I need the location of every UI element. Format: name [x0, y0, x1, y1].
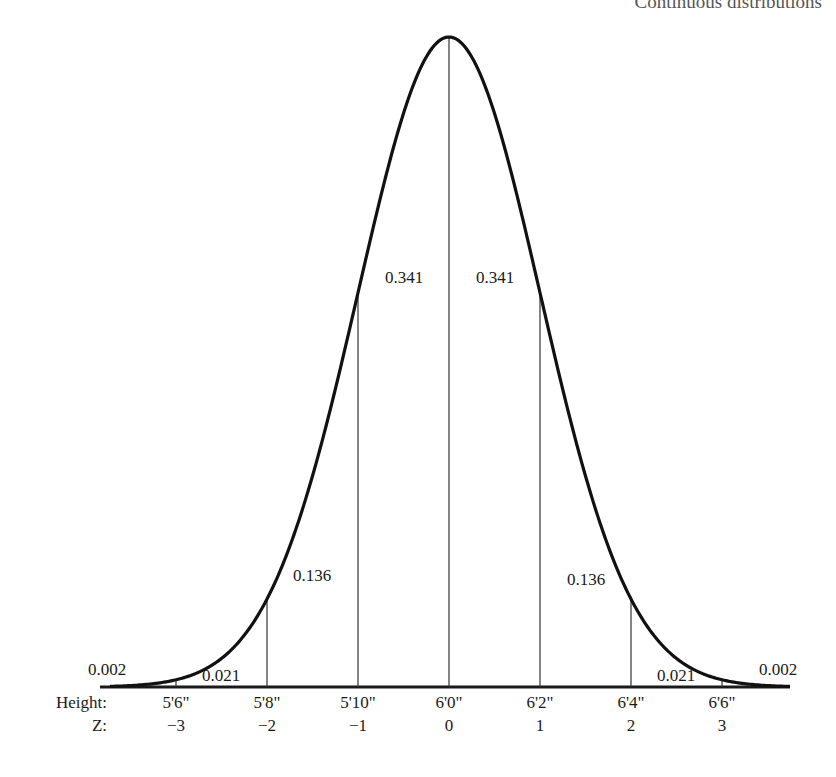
height-tick-label: 6'0" — [435, 693, 462, 713]
region-probability-label: 0.002 — [759, 660, 797, 680]
z-tick-label: −1 — [349, 716, 367, 736]
z-tick-label: 0 — [445, 716, 454, 736]
height-tick-label: 5'6" — [162, 693, 189, 713]
region-probability-label: 0.136 — [293, 566, 331, 586]
z-tick-label: 2 — [627, 716, 636, 736]
region-probability-label: 0.021 — [202, 666, 240, 686]
region-probability-label: 0.341 — [385, 268, 423, 288]
z-tick-label: −2 — [258, 716, 276, 736]
region-probability-label: 0.136 — [567, 570, 605, 590]
height-tick-label: 6'6" — [708, 693, 735, 713]
region-probability-label: 0.341 — [476, 268, 514, 288]
normal-curve — [110, 37, 790, 686]
height-tick-label: 5'10" — [340, 693, 376, 713]
z-tick-label: 3 — [718, 716, 727, 736]
height-row-label: Height: — [0, 693, 107, 713]
z-tick-label: −3 — [167, 716, 185, 736]
height-tick-label: 6'4" — [617, 693, 644, 713]
region-probability-label: 0.002 — [88, 660, 126, 680]
z-row-label: Z: — [0, 716, 107, 736]
region-probability-label: 0.021 — [657, 666, 695, 686]
height-tick-label: 6'2" — [526, 693, 553, 713]
height-tick-label: 5'8" — [253, 693, 280, 713]
z-tick-label: 1 — [536, 716, 545, 736]
